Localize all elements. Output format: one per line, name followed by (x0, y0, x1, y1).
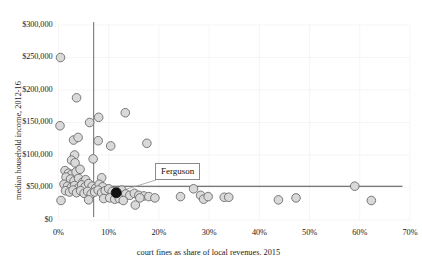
data-point (204, 192, 213, 201)
data-point (189, 185, 198, 194)
data-point (119, 196, 128, 205)
data-point (74, 133, 83, 142)
x-axis-tick: 70% (390, 228, 422, 237)
x-axis-tick: 50% (290, 228, 330, 237)
data-point (136, 194, 145, 203)
data-point (57, 196, 66, 205)
data-point (151, 194, 160, 203)
data-point (76, 165, 85, 174)
data-point (274, 196, 283, 205)
data-point (56, 121, 65, 130)
data-point (350, 182, 359, 191)
x-axis-tick: 10% (89, 228, 129, 237)
x-axis-tick: 20% (139, 228, 179, 237)
x-axis-tick: 40% (239, 228, 279, 237)
x-axis-tick: 30% (189, 228, 229, 237)
ferguson-annotation-label: Ferguson (155, 163, 200, 180)
data-point (176, 192, 185, 201)
x-axis-tick: 60% (340, 228, 380, 237)
y-axis-tick: $150,000 (0, 117, 53, 126)
data-point (89, 155, 98, 164)
data-point (367, 196, 376, 205)
y-axis-tick: $100,000 (0, 150, 53, 159)
data-point (121, 108, 130, 117)
y-axis-title: median household income, 2012-16 (14, 81, 23, 200)
x-axis-title: court fines as share of local revenues. … (0, 248, 417, 257)
ferguson-data-point (111, 188, 121, 198)
data-point (94, 136, 103, 145)
data-point (72, 94, 81, 103)
y-axis-tick: $250,000 (0, 52, 53, 61)
data-point (84, 196, 93, 205)
y-axis-tick: $300,000 (0, 20, 53, 29)
data-point (106, 142, 115, 151)
y-axis-tick: $0 (0, 215, 53, 224)
data-point (224, 193, 233, 202)
data-point (94, 113, 103, 122)
data-point (292, 194, 301, 203)
y-axis-tick: $200,000 (0, 85, 53, 94)
data-point (85, 118, 94, 127)
y-axis-tick: $50,000 (0, 182, 53, 191)
x-axis-tick: 0% (39, 228, 79, 237)
data-point (143, 139, 152, 148)
data-point (56, 53, 65, 62)
